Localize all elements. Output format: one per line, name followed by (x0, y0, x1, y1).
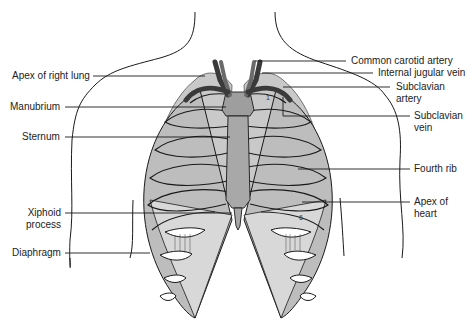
thorax-diagram: 1 6 Apex of right lung Manubrium Sternum… (0, 0, 476, 328)
label-diaphragm: Diaphragm (12, 247, 61, 259)
label-subclavian-vein: Subclavian vein (414, 110, 463, 134)
label-apex-of-heart: Apex of heart (414, 196, 448, 220)
label-subclavian-artery: Subclavian artery (396, 81, 445, 105)
rib-number-1: 1 (266, 94, 270, 101)
label-apex-right-lung: Apex of right lung (12, 70, 90, 82)
label-internal-jugular-vein: Internal jugular vein (378, 67, 465, 79)
label-fourth-rib: Fourth rib (414, 163, 457, 175)
label-xiphoid-process: Xiphoid process (26, 207, 61, 231)
label-manubrium: Manubrium (10, 101, 60, 113)
rib-number-6: 6 (299, 214, 303, 221)
label-sternum: Sternum (22, 131, 60, 143)
thorax-illustration: 1 6 (0, 0, 476, 328)
label-common-carotid-artery: Common carotid artery (351, 55, 453, 67)
